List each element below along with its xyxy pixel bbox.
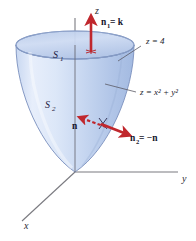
n-inward-label: n (72, 121, 78, 131)
figure-canvas: z y x S 1 S 2 z = 4 z = x² + y² n 1 = k (0, 0, 196, 241)
paraboloid-figure: z y x S 1 S 2 z = 4 z = x² + y² n 1 = k (0, 0, 196, 241)
n1-label: n 1 = k (101, 17, 124, 29)
z-axis-label: z (94, 5, 99, 16)
plane-equation-label: z = 4 (145, 36, 165, 46)
surface-S1-subscript: 1 (60, 55, 64, 63)
x-axis (22, 172, 75, 221)
n2-equals-minus-n: = −n (139, 133, 158, 143)
n2-label: n 2 = −n (130, 133, 158, 145)
n1-equals-k: = k (110, 17, 124, 27)
paraboloid-equation-label: z = x² + y² (139, 87, 178, 97)
surface-S1-letter: S (53, 49, 58, 60)
paraboloid-equation-text: z = x² + y² (139, 87, 178, 97)
y-axis-label: y (181, 173, 187, 184)
surface-S2-subscript: 2 (52, 105, 56, 113)
x-axis-label: x (23, 220, 29, 231)
surface-S2-letter: S (45, 99, 50, 110)
